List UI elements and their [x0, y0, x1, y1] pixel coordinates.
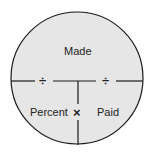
circle-outline [11, 12, 143, 144]
percent-circle [0, 0, 150, 156]
divide-left-icon: ÷ [39, 74, 46, 87]
made-label: Made [64, 45, 92, 57]
paid-label: Paid [97, 106, 119, 118]
multiply-icon: × [73, 106, 81, 119]
divide-right-icon: ÷ [102, 74, 109, 87]
percent-label: Percent [30, 106, 68, 118]
